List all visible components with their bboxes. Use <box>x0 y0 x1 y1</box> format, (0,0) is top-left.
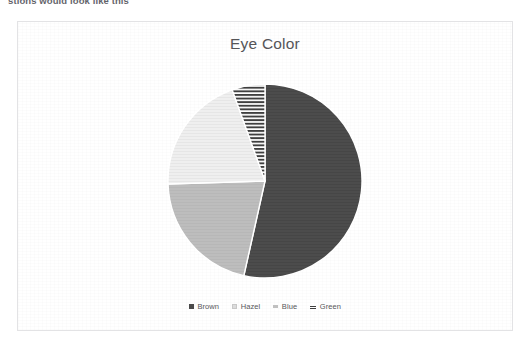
legend-label-brown: Brown <box>197 302 219 311</box>
legend-label-hazel: Hazel <box>241 302 261 311</box>
legend-swatch-blue-icon <box>273 305 278 308</box>
pie-chart <box>18 22 514 332</box>
legend-item-green[interactable]: Green <box>310 302 341 311</box>
legend-item-blue[interactable]: Blue <box>273 302 297 311</box>
chart-card: Eye Color <box>17 21 513 331</box>
legend-swatch-hazel-icon <box>232 304 237 309</box>
legend-item-brown[interactable]: Brown <box>189 302 219 311</box>
legend-swatch-brown-icon <box>189 304 194 309</box>
pie-slice-group <box>168 84 362 278</box>
legend-label-blue: Blue <box>282 302 297 311</box>
chart-legend: Brown Hazel Blue Green <box>18 302 512 311</box>
pie-chart-svg <box>18 22 514 332</box>
clipped-page-text: stions would look like this <box>8 0 208 6</box>
legend-swatch-green-icon <box>310 305 316 309</box>
legend-item-hazel[interactable]: Hazel <box>232 302 260 311</box>
legend-label-green: Green <box>320 302 341 311</box>
